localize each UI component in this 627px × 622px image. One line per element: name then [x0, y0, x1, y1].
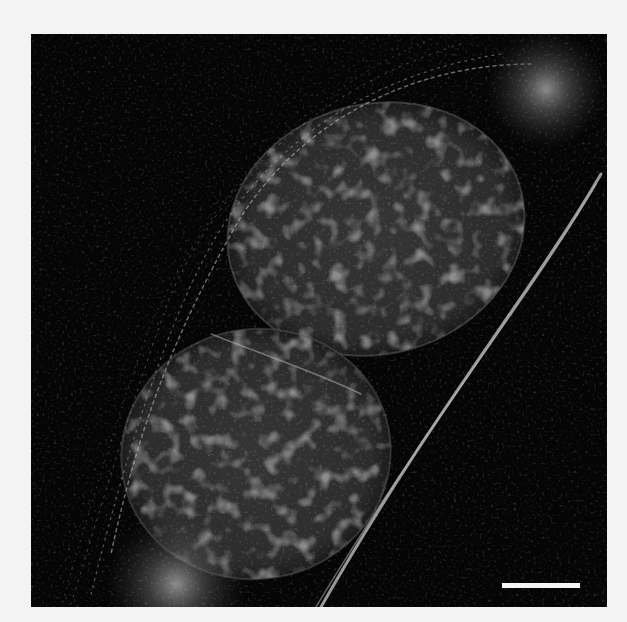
scale-bar [502, 583, 580, 588]
micrograph-image [31, 34, 607, 607]
micrograph-content [31, 34, 607, 607]
